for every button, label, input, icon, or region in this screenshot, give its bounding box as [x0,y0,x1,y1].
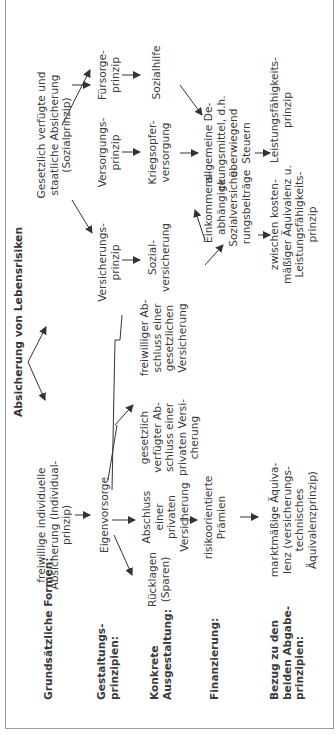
node-eigenvorsorge: Eigenvorsorge [98,475,111,555]
node-abschluss-privat: Abschluss einer privaten Versicherung [140,481,190,553]
node-individual: freiwillige individuelle Absicherung (In… [35,460,73,590]
row-label-ausgestaltung: Konkrete Ausgestaltung: [148,609,173,700]
node-marktmaessige: marktmäßige Äquiva- lenz (versicherungs-… [268,455,318,585]
row-label-abgabeprinzipien: Bezug zu den beiden Abgabe- prinzipien: [268,606,306,700]
node-sozialhilfe: Sozialhilfe [150,40,163,105]
node-versicherungsprinzip: Versicherungs- prinzip [96,220,121,305]
node-risikoorientierte: risikoorientierte Prämien [202,470,227,565]
node-freiwilliger-abschluss: freiwilliger Ab- schluss einer gesetzlic… [138,293,188,383]
node-ruecklagen: Rücklagen (Sparen) [146,552,171,607]
node-leistungsfaehigkeit: Leistungsfähigkeits- prinzip [268,55,293,165]
row-label-finanzierung: Finanzierung: [208,618,221,700]
node-deckungsmittel: allgemeine De- ckungsmittel, d.h. überwi… [202,93,252,193]
node-gesetzlich-verfuegter: gesetzlich verfügter Ab- schluss einer p… [138,395,201,480]
node-zwischen: zwischen kosten- mäßiger Äquivalenz u. L… [268,162,318,287]
node-versorgungsprinzip: Versorgungs- prinzip [96,115,121,190]
rotated-diagram: Absicherung von Lebensrisiken Grundsätzl… [0,0,336,735]
node-sozialversicherung: Sozial- versicherung [146,220,171,295]
row-label-gestaltung: Gestaltungs- prinzipien: [95,624,120,700]
node-social: Gesetzlich verfügte und staatliche Absic… [35,60,73,210]
diagram-title: Absicherung von Lebensrisiken [12,227,25,417]
node-fuersorgeprinzip: Fürsorge- prinzip [96,40,121,110]
node-kriegsopferversorgung: Kriegsopfer- versorgung [146,115,171,190]
